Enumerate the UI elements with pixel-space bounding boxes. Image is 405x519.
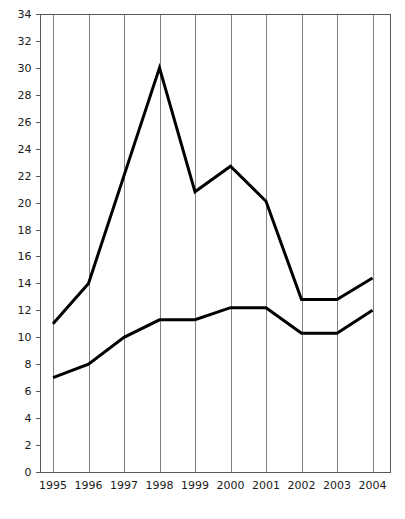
y-tick-label-2: 2 [25,439,32,452]
x-tick-label-1995: 1995 [39,479,67,492]
chart-background [0,0,405,519]
y-tick-label-22: 22 [18,170,32,183]
x-tick-label-2001: 2001 [252,479,280,492]
y-tick-label-24: 24 [18,143,32,156]
y-tick-label-26: 26 [18,116,32,129]
x-tick-label-1996: 1996 [75,479,103,492]
y-tick-label-30: 30 [18,62,32,75]
y-tick-label-14: 14 [18,277,32,290]
y-tick-label-28: 28 [18,89,32,102]
y-tick-label-12: 12 [18,304,32,317]
y-tick-label-20: 20 [18,197,32,210]
x-tick-label-1998: 1998 [146,479,174,492]
x-tick-label-1997: 1997 [110,479,138,492]
x-tick-label-2003: 2003 [323,479,351,492]
y-tick-label-32: 32 [18,35,32,48]
y-tick-label-6: 6 [25,385,32,398]
y-tick-label-4: 4 [25,412,32,425]
y-tick-label-0: 0 [25,466,32,479]
x-tick-label-1999: 1999 [181,479,209,492]
x-tick-label-2004: 2004 [359,479,387,492]
y-tick-label-8: 8 [25,358,32,371]
y-tick-label-18: 18 [18,224,32,237]
y-tick-label-34: 34 [18,8,32,21]
line-chart: 0246810121416182022242628303234 19951996… [0,0,405,519]
x-tick-label-2002: 2002 [288,479,316,492]
x-tick-label-2000: 2000 [217,479,245,492]
y-tick-label-10: 10 [18,331,32,344]
y-tick-label-16: 16 [18,250,32,263]
chart-canvas: 0246810121416182022242628303234 19951996… [0,0,405,519]
